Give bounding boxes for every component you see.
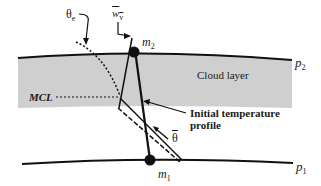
m2-label: m2 (142, 36, 155, 51)
m1-label: m1 (158, 168, 171, 183)
wv-arrowhead (124, 33, 131, 39)
m2-subscript: 2 (151, 42, 155, 51)
theta-e-label: θe (66, 8, 75, 23)
theta-e-subscript: e (72, 14, 76, 23)
initial-temperature-label: Initial temperature profile (190, 107, 280, 131)
theta-bar-label: θ (172, 132, 178, 144)
cloud-layer-band (18, 53, 292, 108)
theta-e-leader (79, 14, 88, 40)
wv-label: wv (112, 8, 123, 22)
theta-bar-arrow (156, 129, 168, 139)
p2-subscript: 2 (302, 63, 306, 72)
p1-subscript: 1 (303, 167, 307, 176)
p1-label: p1 (296, 160, 307, 176)
wv-leader (118, 22, 128, 36)
air-mass-m2 (129, 47, 140, 58)
air-mass-m1 (145, 155, 156, 166)
mcl-label: MCL (29, 92, 53, 103)
wv-symbol: wv (112, 7, 123, 19)
initial-temperature-line (120, 98, 182, 160)
cloud-layer-label: Cloud layer (197, 70, 249, 81)
wv-subscript: v (119, 13, 123, 22)
cloud-layer-diagram: θe wv m2 p2 Cloud layer MCL Initial temp… (0, 0, 321, 186)
m1-letter: m (158, 167, 167, 181)
p2-label: p2 (295, 56, 306, 72)
theta-e-arrowhead (83, 38, 89, 45)
m2-letter: m (142, 35, 151, 49)
pressure-surface-p1 (22, 160, 293, 164)
m1-subscript: 1 (167, 174, 171, 183)
initial-temperature-line2: profile (190, 119, 280, 131)
initial-temperature-line1: Initial temperature (190, 107, 280, 119)
